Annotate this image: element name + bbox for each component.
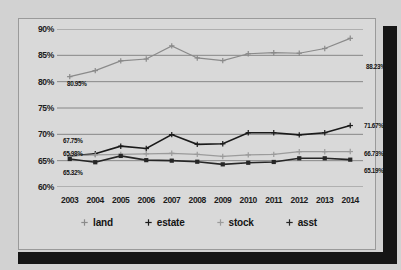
x-axis-tick-label: 2005 [108,195,134,205]
data-point-marker [348,149,353,154]
x-axis-tick-label: 2010 [236,195,262,205]
data-point-marker [271,152,276,157]
x-axis-tick-label: 2011 [261,195,287,205]
y-axis-tick-label: 70% [24,129,54,139]
y-axis-tick-label: 60% [24,182,54,192]
data-point-marker [220,58,225,63]
data-point-marker [81,219,87,225]
y-axis-tick-label: 75% [24,103,54,113]
data-point-marker [118,58,123,63]
series-line-stock [70,152,351,157]
plot-area: 60%65%70%75%80%85%90% [57,29,363,187]
legend-marker-icon [215,217,226,228]
x-axis-tick-label: 2008 [185,195,211,205]
legend-marker-icon [284,217,295,228]
data-point-marker [217,219,223,225]
data-point-marker [144,151,149,156]
legend-marker-icon [79,217,90,228]
data-point-marker [271,50,276,55]
data-point-marker [169,43,174,48]
data-label-stock-2014: 66.73% [364,150,384,157]
data-point-marker [195,55,200,60]
data-label-land-2014: 88.23% [366,63,386,70]
data-point-marker [144,158,148,162]
data-point-marker [297,132,302,137]
legend-label: asst [298,217,317,228]
chart-card: 60%65%70%75%80%85%90% 200320042005200620… [18,18,376,250]
x-axis-tick-label: 2013 [312,195,338,205]
data-point-marker [286,219,292,225]
data-point-marker [348,123,353,128]
data-point-marker [144,56,149,61]
series-line-asst [70,156,351,164]
y-axis-tick-label: 65% [24,156,54,166]
data-point-marker [195,142,200,147]
data-label-estate-2003: 67.75% [63,137,83,144]
data-point-marker [195,160,199,164]
data-point-marker [118,143,123,148]
card-shadow-bottom [18,252,388,264]
x-axis-tick-label: 2009 [210,195,236,205]
x-axis-tick-label: 2004 [83,195,109,205]
legend-item-stock[interactable]: stock [215,217,254,228]
card-shadow-right [383,26,397,264]
data-point-marker [246,161,250,165]
data-label-asst-2003: 65.32% [63,169,83,176]
x-axis-tick-label: 2006 [134,195,160,205]
data-point-marker [68,157,72,161]
data-point-marker [170,159,174,163]
legend-label: estate [157,217,185,228]
data-point-marker [323,156,327,160]
data-label-asst-2014: 65.19% [364,167,384,174]
x-axis-tick-label: 2003 [57,195,83,205]
y-axis-tick-label: 85% [24,50,54,60]
data-point-marker [322,149,327,154]
data-label-estate-2014: 71.67% [364,122,384,129]
data-label-land-2003: 80.95% [67,80,87,87]
data-point-marker [145,219,151,225]
legend-item-asst[interactable]: asst [284,217,317,228]
data-point-marker [169,151,174,156]
data-point-marker [67,74,72,79]
data-point-marker [119,154,123,158]
chart-legend: landestatestockasst [19,217,377,228]
x-axis-tick-label: 2007 [159,195,185,205]
line-chart-svg [57,29,363,187]
x-axis-tick-label: 2014 [338,195,364,205]
data-point-marker [220,141,225,146]
data-point-marker [246,152,251,157]
data-point-marker [297,149,302,154]
chart-screenshot: 60%65%70%75%80%85%90% 200320042005200620… [0,0,401,270]
data-point-marker [348,36,353,41]
x-axis-ticks: 2003200420052006200720082009201020112012… [57,195,363,205]
y-axis-tick-label: 80% [24,77,54,87]
data-point-marker [348,158,352,162]
data-point-marker [195,152,200,157]
legend-item-land[interactable]: land [79,217,113,228]
legend-item-estate[interactable]: estate [143,217,185,228]
data-point-marker [297,156,301,160]
data-point-marker [93,160,97,164]
data-point-marker [272,160,276,164]
data-label-stock-2003: 65.98% [63,150,83,157]
legend-label: stock [229,217,254,228]
data-point-marker [322,46,327,51]
data-point-marker [93,68,98,73]
series-line-land [70,38,351,76]
legend-marker-icon [143,217,154,228]
x-axis-tick-label: 2012 [287,195,313,205]
y-axis-tick-label: 90% [24,24,54,34]
data-point-marker [220,154,225,159]
data-point-marker [221,162,225,166]
legend-label: land [93,217,113,228]
